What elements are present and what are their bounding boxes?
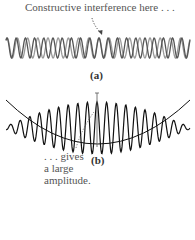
note-line-2: a large: [44, 162, 104, 174]
note-line-3: amplitude.: [44, 174, 104, 186]
beat-wave: [6, 102, 190, 154]
note-line-1: . . . gives: [44, 150, 104, 162]
amplitude-note: . . . gives a large amplitude.: [44, 150, 104, 186]
panel-a-label: (a): [90, 69, 103, 81]
